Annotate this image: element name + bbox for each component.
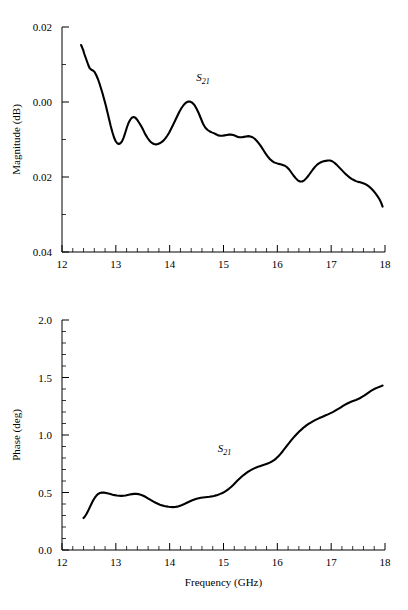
x-tick-label: 17 [326,258,338,270]
x-axis-title: Frequency (GHz) [185,576,263,589]
x-tick-label: 12 [57,556,68,568]
phase-panel: 121314151617180.00.51.01.52.0Phase (deg)… [0,300,408,610]
x-tick-label: 18 [380,258,392,270]
y-tick-label: 0.5 [38,487,52,499]
data-curve [81,45,382,207]
magnitude-panel: 121314151617180.020.000.020.04Magnitude … [0,0,408,300]
axis-spines [62,27,385,252]
series-annotation-s21: S21 [218,442,232,457]
x-tick-label: 12 [57,258,68,270]
x-tick-label: 17 [326,556,338,568]
axis-spines [62,320,385,550]
phase-chart: 121314151617180.00.51.01.52.0Phase (deg)… [0,300,408,610]
x-tick-label: 14 [164,258,176,270]
x-tick-label: 16 [272,258,284,270]
y-tick-label: 0.02 [33,171,52,183]
y-tick-label: 0.04 [33,246,53,258]
x-tick-label: 13 [110,556,122,568]
figure-container: 121314151617180.020.000.020.04Magnitude … [0,0,408,610]
x-tick-label: 13 [110,258,122,270]
series-annotation-s21: S21 [196,71,210,86]
y-axis-title: Phase (deg) [10,409,23,461]
y-tick-label: 0.02 [33,21,52,33]
x-tick-label: 15 [218,556,230,568]
x-tick-label: 18 [380,556,392,568]
y-tick-label: 2.0 [38,314,52,326]
data-curve [84,386,383,518]
magnitude-chart: 121314151617180.020.000.020.04Magnitude … [0,0,408,300]
x-tick-label: 15 [218,258,230,270]
x-tick-label: 14 [164,556,176,568]
y-axis-title: Magnitude (dB) [10,104,23,175]
x-tick-label: 16 [272,556,284,568]
y-tick-label: 0.0 [38,544,52,556]
y-tick-label: 0.00 [33,96,53,108]
y-tick-label: 1.0 [38,429,52,441]
y-tick-label: 1.5 [38,372,52,384]
